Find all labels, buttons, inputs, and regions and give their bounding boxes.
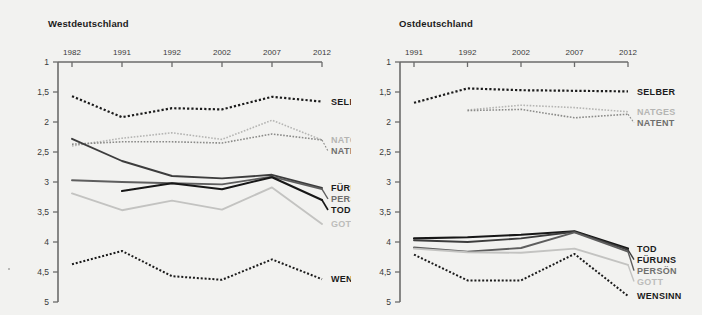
x-tick-label: 2002	[512, 48, 530, 57]
legend-label-natent: NATENT	[331, 146, 351, 156]
y-tick-label: 5	[44, 297, 49, 307]
x-tick-label: 2012	[313, 48, 331, 57]
series-line-wensinn	[414, 254, 628, 296]
series-line-natges	[468, 105, 629, 112]
legend-label-selber: SELBER	[331, 97, 351, 107]
y-tick-label: 1	[44, 57, 49, 67]
x-tick-label: 2007	[566, 48, 584, 57]
series-line-natent	[468, 109, 629, 117]
legend-label-natges: NATGES	[637, 107, 676, 117]
legend-label-wensinn: WENSINN	[331, 274, 351, 284]
y-tick-label: 2,5	[37, 147, 49, 157]
legend-label-tod: TOD	[331, 205, 351, 215]
series-line-wensinn	[72, 251, 322, 280]
legend-leader-tod	[322, 200, 328, 210]
legend-label-persön: PERSÖN	[331, 194, 351, 204]
y-tick-label: 2	[386, 117, 391, 127]
y-tick-label: 4	[44, 237, 49, 247]
y-tick-label: 3	[386, 177, 391, 187]
y-tick-label: 3	[44, 177, 49, 187]
x-tick-label: 2012	[619, 48, 637, 57]
legend-label-füruns: FÜRUNS	[331, 183, 351, 193]
x-tick-label: 1982	[63, 48, 81, 57]
legend-leader-natent	[628, 114, 634, 123]
x-tick-label: 1991	[405, 48, 423, 57]
x-tick-label: 1991	[113, 48, 131, 57]
legend-label-gott: GOTT	[331, 219, 351, 229]
y-tick-label: 2	[44, 117, 49, 127]
x-tick-label: 2007	[263, 48, 281, 57]
y-tick-label: 5	[386, 297, 391, 307]
legend-label-wensinn: WENSINN	[637, 291, 682, 301]
y-tick-label: 1,5	[37, 87, 49, 97]
legend-label-füruns: FÜRUNS	[637, 255, 676, 265]
x-tick-label: 2002	[213, 48, 231, 57]
panel-westdeutschland: Westdeutschland 11,522,533,544,551982199…	[0, 0, 351, 315]
y-tick-label: 3,5	[379, 207, 391, 217]
y-tick-label: 3,5	[37, 207, 49, 217]
legend-label-gott: GOTT	[637, 277, 663, 287]
y-tick-label: 4,5	[379, 267, 391, 277]
plot-area-ost: 11,522,533,544,5519911992200220072012SEL…	[351, 0, 702, 315]
legend-label-natges: NATGES	[331, 135, 351, 145]
series-line-selber	[414, 88, 628, 102]
y-tick-label: 1	[386, 57, 391, 67]
y-tick-label: 4	[386, 237, 391, 247]
legend-label-tod: TOD	[637, 244, 657, 254]
x-tick-label: 1992	[163, 48, 181, 57]
series-line-gott	[72, 187, 322, 224]
legend-label-natent: NATENT	[637, 118, 675, 128]
y-tick-label: 2,5	[379, 147, 391, 157]
x-tick-label: 1992	[459, 48, 477, 57]
legend-label-persön: PERSÖN	[637, 266, 677, 276]
y-tick-label: 4,5	[37, 267, 49, 277]
chart-figure: Westdeutschland 11,522,533,544,551982199…	[0, 0, 702, 315]
legend-leader-natent	[322, 140, 328, 151]
legend-leader-persön	[322, 189, 328, 199]
series-line-selber	[72, 96, 322, 117]
plot-area-west: 11,522,533,544,5519821991199220022007201…	[0, 0, 351, 315]
y-tick-label: 1,5	[379, 87, 391, 97]
panel-ostdeutschland: Ostdeutschland 11,522,533,544,5519911992…	[351, 0, 702, 315]
paper-speck	[8, 268, 10, 270]
series-line-gott	[414, 249, 628, 265]
legend-label-selber: SELBER	[637, 87, 676, 97]
